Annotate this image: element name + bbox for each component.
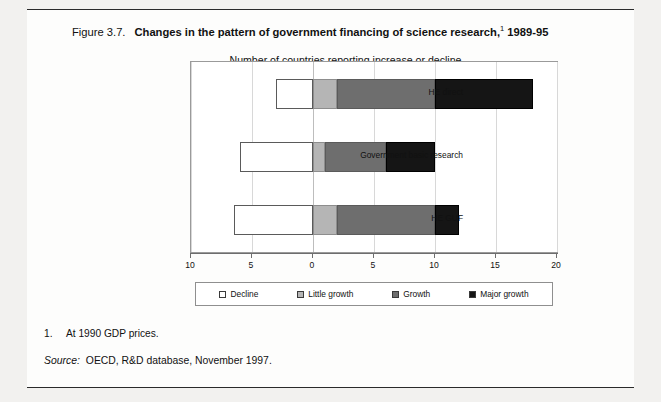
figure-number: Figure 3.7. — [72, 26, 125, 38]
footnote-text: At 1990 GDP prices. — [66, 328, 159, 339]
bar-segment-growth — [337, 79, 435, 109]
bar-segment-little — [313, 205, 337, 235]
bar-segment-decline — [240, 142, 313, 172]
x-tick — [434, 253, 435, 258]
bar-segment-little — [313, 79, 337, 109]
figure-title: Figure 3.7.Changes in the pattern of gov… — [72, 24, 548, 38]
source-text: OECD, R&D database, November 1997. — [86, 355, 272, 366]
figure-footnote: 1.At 1990 GDP prices. — [44, 328, 159, 339]
legend-swatch-growth — [392, 291, 399, 298]
bar-segment-growth — [337, 205, 435, 235]
x-tick — [251, 253, 252, 258]
legend-swatch-little — [297, 291, 304, 298]
legend-item[interactable]: Decline — [219, 289, 258, 299]
source-label: Source: — [44, 355, 80, 366]
footnote-number: 1. — [44, 328, 66, 339]
x-tick-label: 0 — [310, 260, 315, 270]
legend-label: Little growth — [308, 289, 353, 299]
x-tick — [190, 253, 191, 258]
x-tick-label: 10 — [185, 260, 195, 270]
x-tick — [373, 253, 374, 258]
x-tick-label: 5 — [249, 260, 254, 270]
legend-label: Major growth — [480, 289, 528, 299]
figure-title-years: 1989-95 — [504, 26, 548, 38]
legend-swatch-decline — [219, 291, 226, 298]
legend-item[interactable]: Major growth — [469, 289, 528, 299]
x-tick-label: 20 — [551, 260, 561, 270]
bar-segment-decline — [234, 205, 313, 235]
legend-item[interactable]: Growth — [392, 289, 430, 299]
category-label: Government basic research — [360, 150, 463, 160]
legend-item[interactable]: Little growth — [297, 289, 353, 299]
x-tick — [556, 253, 557, 258]
x-tick — [495, 253, 496, 258]
figure-title-text: Changes in the pattern of government fin… — [134, 26, 500, 38]
bar-group — [191, 197, 557, 243]
x-axis: 10505101520 — [190, 253, 558, 254]
x-tick-label: 10 — [429, 260, 439, 270]
bar-segment-decline — [276, 79, 313, 109]
category-label: HE direct — [429, 87, 463, 97]
gridline-20 — [557, 62, 558, 252]
figure-source: Source:OECD, R&D database, November 1997… — [44, 355, 272, 366]
x-tick-label: 5 — [371, 260, 376, 270]
legend-swatch-major — [469, 291, 476, 298]
bar-segment-little — [313, 142, 325, 172]
x-tick-label: 15 — [490, 260, 500, 270]
chart-legend: DeclineLittle growthGrowthMajor growth — [195, 282, 553, 306]
figure-container: Figure 3.7.Changes in the pattern of gov… — [27, 9, 634, 388]
legend-label: Growth — [403, 289, 430, 299]
x-tick — [312, 253, 313, 258]
bar-group — [191, 71, 557, 117]
legend-label: Decline — [230, 289, 258, 299]
category-label: HE GUF — [431, 213, 463, 223]
